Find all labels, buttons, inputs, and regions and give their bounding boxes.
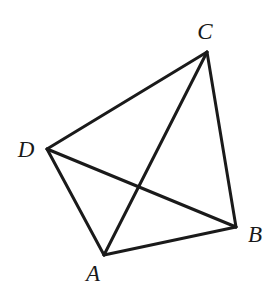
edge-ba (104, 227, 236, 255)
vertex-label-c: C (197, 20, 212, 43)
geometry-canvas (0, 0, 275, 293)
edge-db (47, 149, 236, 227)
vertex-label-b: B (248, 223, 262, 246)
edge-ad (47, 149, 104, 255)
vertex-label-d: D (18, 138, 35, 161)
edge-group (47, 52, 236, 255)
geometry-figure: C D A B (0, 0, 275, 293)
edge-cb (207, 52, 236, 227)
vertex-label-a: A (86, 262, 100, 285)
